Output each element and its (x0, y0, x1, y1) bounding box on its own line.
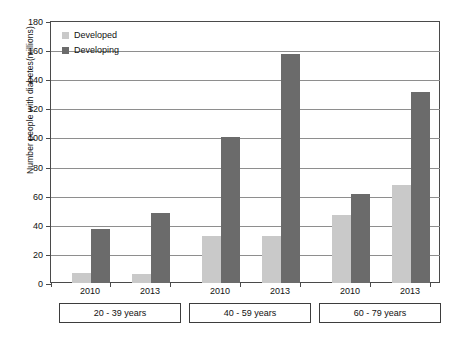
x-axis-tick (110, 283, 111, 287)
y-axis-tick-label: 120 (19, 104, 43, 114)
y-axis-tick-label: 40 (19, 221, 43, 231)
bar-developed[interactable] (332, 215, 351, 283)
x-axis-tick (430, 283, 431, 287)
x-axis-year-label: 2013 (260, 286, 300, 296)
plot-area: 020406080100120140160180 (50, 21, 440, 283)
y-axis-tick (46, 226, 51, 227)
y-axis-tick (46, 255, 51, 256)
x-axis-tick (300, 283, 301, 287)
legend-item[interactable]: Developed (62, 28, 119, 43)
bar-developing[interactable] (221, 137, 240, 283)
x-axis-year-label: 2010 (200, 286, 240, 296)
bar-developing[interactable] (351, 194, 370, 283)
legend: DevelopedDeveloping (62, 28, 119, 58)
x-axis-year-label: 2010 (70, 286, 110, 296)
legend-item-label: Developing (74, 43, 119, 58)
bar-developed[interactable] (202, 236, 221, 283)
y-axis-tick-label: 20 (19, 250, 43, 260)
x-axis-year-label: 2013 (130, 286, 170, 296)
y-axis-tick-label: 180 (19, 17, 43, 27)
gridline (51, 80, 440, 81)
y-axis-tick (46, 80, 51, 81)
gridline (51, 197, 440, 198)
x-axis-tick (51, 283, 52, 287)
bar-chart: Number people with diabetes(millions) 02… (0, 0, 456, 339)
y-axis-tick (46, 197, 51, 198)
gridline (51, 109, 440, 110)
y-axis-tick-label: 160 (19, 46, 43, 56)
bar-developed[interactable] (262, 236, 281, 283)
x-axis-tick (170, 283, 171, 287)
bar-developed[interactable] (72, 273, 91, 283)
gridline (51, 168, 440, 169)
legend-swatch-icon (62, 32, 69, 39)
x-axis-tick (370, 283, 371, 287)
gridline (51, 226, 440, 227)
plot-right-edge (439, 22, 440, 283)
gridline (51, 138, 440, 139)
bar-developing[interactable] (91, 229, 110, 283)
y-axis-tick (46, 138, 51, 139)
group-label-box: 60 - 79 years (319, 303, 441, 323)
legend-item-label: Developed (74, 28, 117, 43)
legend-swatch-icon (62, 47, 69, 54)
y-axis-tick (46, 109, 51, 110)
group-label-box: 40 - 59 years (189, 303, 311, 323)
x-axis-year-label: 2010 (330, 286, 370, 296)
y-axis-tick (46, 168, 51, 169)
legend-item[interactable]: Developing (62, 43, 119, 58)
bar-developed[interactable] (392, 185, 411, 283)
y-axis-tick-label: 0 (19, 279, 43, 289)
bar-developing[interactable] (281, 54, 300, 283)
y-axis-tick-label: 100 (19, 133, 43, 143)
bar-developing[interactable] (411, 92, 430, 283)
group-label-box: 20 - 39 years (59, 303, 181, 323)
y-axis-tick (46, 51, 51, 52)
y-axis-tick-label: 140 (19, 75, 43, 85)
y-axis-tick-label: 60 (19, 192, 43, 202)
y-axis-tick (46, 22, 51, 23)
bar-developed[interactable] (132, 274, 151, 283)
x-axis-tick (240, 283, 241, 287)
bar-developing[interactable] (151, 213, 170, 283)
x-axis-year-label: 2013 (390, 286, 430, 296)
y-axis-tick-label: 80 (19, 163, 43, 173)
